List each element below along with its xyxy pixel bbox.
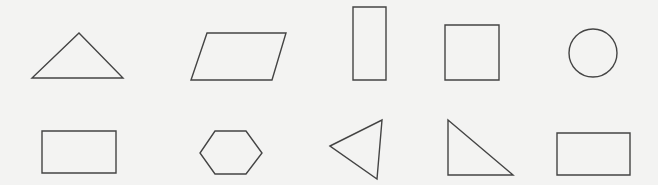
shapes-worksheet: [0, 0, 658, 185]
paper-background: [0, 0, 658, 185]
